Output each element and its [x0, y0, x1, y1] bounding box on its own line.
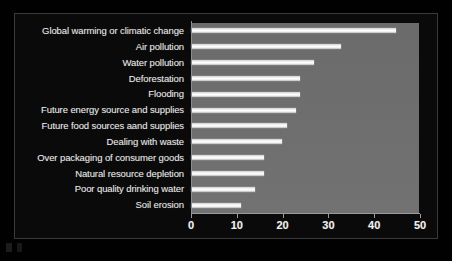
x-ticklabel: 30: [322, 218, 334, 232]
category-label: Global warming or climatic change: [15, 23, 189, 39]
figure: Global warming or climatic changeAir pol…: [0, 0, 452, 261]
category-label: Natural resource depletion: [15, 165, 189, 181]
bar: [191, 60, 314, 65]
category-axis: Global warming or climatic changeAir pol…: [15, 23, 189, 213]
bar: [191, 123, 287, 128]
bar-series: [191, 23, 419, 213]
category-label: Air pollution: [15, 39, 189, 55]
category-label: Over packaging of consumer goods: [15, 150, 189, 166]
category-label: Deforestation: [15, 70, 189, 86]
x-axis-ticklabels: 01020304050: [191, 218, 420, 234]
x-ticklabel: 50: [414, 218, 426, 232]
bar: [191, 155, 264, 160]
bar-slot: [191, 197, 419, 213]
bar-slot: [191, 134, 419, 150]
bar: [191, 76, 300, 81]
bar-slot: [191, 39, 419, 55]
bar-slot: [191, 118, 419, 134]
category-label: Flooding: [15, 86, 189, 102]
bar: [191, 171, 264, 176]
bar-slot: [191, 181, 419, 197]
scan-artifact: [6, 243, 32, 252]
bar: [191, 28, 396, 33]
plot-area: [191, 23, 419, 213]
bar-slot: [191, 102, 419, 118]
bar: [191, 139, 282, 144]
bar-slot: [191, 150, 419, 166]
bar-slot: [191, 70, 419, 86]
category-label: Soil erosion: [15, 197, 189, 213]
category-label: Future food sources aand supplies: [15, 118, 189, 134]
x-ticklabel: 20: [276, 218, 288, 232]
category-label: Future energy source and supplies: [15, 102, 189, 118]
bar: [191, 44, 341, 49]
bar: [191, 92, 300, 97]
bar-slot: [191, 23, 419, 39]
x-ticklabel: 0: [188, 218, 194, 232]
bar-slot: [191, 55, 419, 71]
category-label: Poor quality drinking water: [15, 181, 189, 197]
y-axis-spine: [191, 21, 192, 215]
bar: [191, 203, 241, 208]
bar-slot: [191, 86, 419, 102]
category-label: Water pollution: [15, 55, 189, 71]
x-ticklabel: 40: [368, 218, 380, 232]
bar-slot: [191, 165, 419, 181]
bar-chart-panel: Global warming or climatic changeAir pol…: [14, 13, 438, 239]
bar: [191, 187, 255, 192]
bar: [191, 108, 296, 113]
category-label: Dealing with waste: [15, 134, 189, 150]
x-ticklabel: 10: [231, 218, 243, 232]
